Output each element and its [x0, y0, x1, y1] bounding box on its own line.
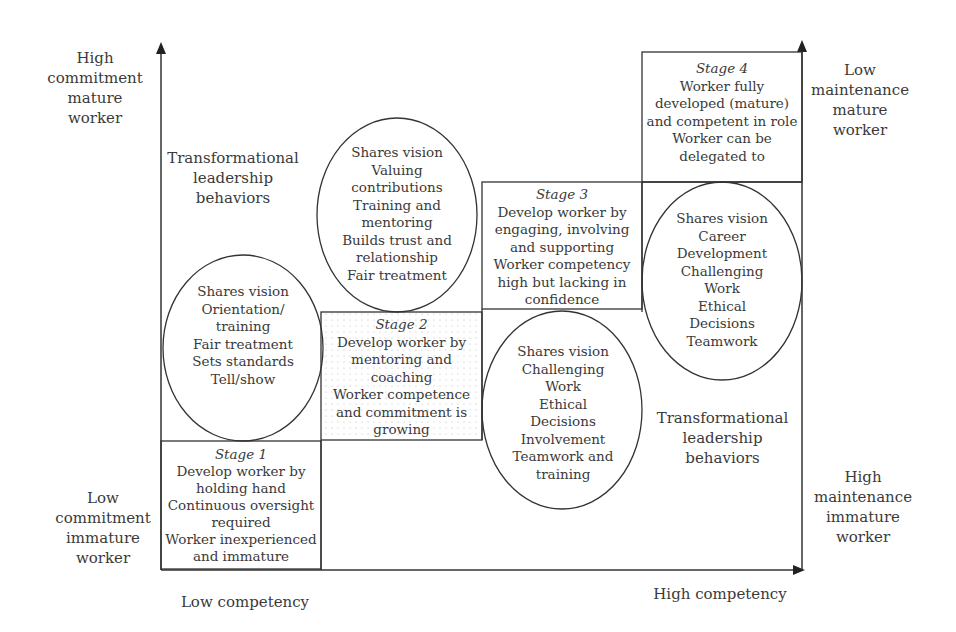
x-axis-arrow-icon: [793, 565, 805, 575]
y-top-label: High commitment mature worker: [40, 48, 150, 128]
stage-2-title: Stage 2: [321, 316, 482, 334]
stage-3-text: Stage 3 Develop worker by engaging, invo…: [482, 186, 642, 309]
transformational-label-upper: Transformational leadership behaviors: [163, 148, 303, 208]
leadership-stage-diagram: High commitment mature worker Low commit…: [0, 0, 956, 632]
stage-1-text: Stage 1 Develop worker by holding hand C…: [161, 446, 321, 565]
stage-2-text: Stage 2 Develop worker by mentoring and …: [321, 316, 482, 439]
right-axis-arrow-icon: [797, 40, 807, 52]
stage-1-title: Stage 1: [161, 446, 321, 463]
stage-1-ellipse-text: Shares vision Orientation/ training Fair…: [163, 283, 323, 388]
stage-4-text: Stage 4 Worker fully developed (mature) …: [642, 60, 802, 165]
right-bottom-label: High maintenance immature worker: [808, 467, 918, 547]
stage-3-title: Stage 3: [482, 186, 642, 204]
stage-2-ellipse-text: Shares vision Valuing contributions Trai…: [317, 144, 477, 284]
transformational-label-lower: Transformational leadership behaviors: [650, 408, 795, 468]
stage-4-ellipse-text: Shares vision Career Development Challen…: [642, 210, 802, 350]
y-axis-arrow-icon: [156, 42, 166, 54]
right-top-label: Low maintenance mature worker: [805, 60, 915, 140]
x-left-label: Low competency: [170, 592, 320, 612]
stage-4-title: Stage 4: [642, 60, 802, 78]
x-right-label: High competency: [645, 584, 795, 604]
stage-3-ellipse-text: Shares vision Challenging Work Ethical D…: [483, 343, 643, 483]
y-bottom-label: Low commitment immature worker: [48, 488, 158, 568]
